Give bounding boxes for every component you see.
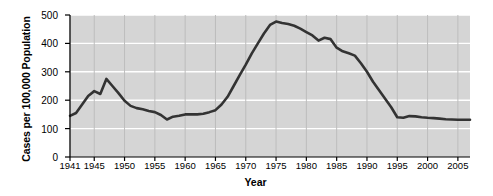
chart-figure: Cases per 100,000 Population 50040030020… (0, 0, 493, 196)
y-axis-tick-marks (65, 15, 70, 157)
plot-area (0, 0, 493, 196)
x-axis-title: Year (0, 176, 493, 188)
x-axis-tick-marks (70, 157, 458, 161)
plot-panel (70, 15, 470, 157)
x-axis-title-text: Year (244, 176, 266, 188)
